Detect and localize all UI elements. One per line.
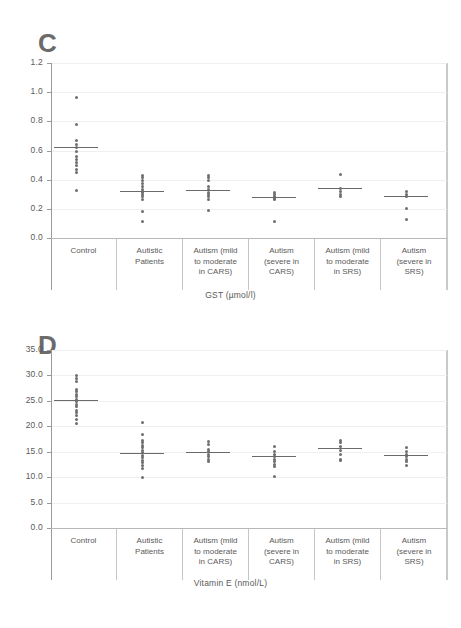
panel-c-category-axis: ControlAutistic PatientsAutism (mild to …: [51, 238, 447, 290]
mean-line: [252, 456, 296, 457]
data-point: [141, 421, 144, 424]
data-point: [339, 173, 342, 176]
panel-d: D 0.05.010.015.020.025.030.035.0 Control…: [0, 314, 461, 628]
y-axis-label: 1.2: [17, 58, 43, 67]
y-axis-label: 0.8: [17, 116, 43, 125]
gridline: [51, 63, 447, 64]
data-point: [141, 220, 144, 223]
gridline: [51, 375, 447, 376]
data-point: [273, 220, 276, 223]
mean-line: [120, 191, 164, 192]
category-label-4: Autism (mild to moderate in SRS): [315, 529, 381, 580]
mean-line: [120, 453, 164, 454]
figure-container: C 0.00.20.40.60.81.01.2 ControlAutistic …: [0, 0, 461, 628]
data-point: [75, 150, 78, 153]
category-label-2: Autism (mild to moderate in CARS): [183, 239, 249, 290]
mean-line: [384, 455, 428, 456]
y-axis-label: 0.2: [17, 204, 43, 213]
gridline: [51, 477, 447, 478]
data-point: [75, 414, 78, 417]
data-point: [405, 446, 408, 449]
data-point: [339, 459, 342, 462]
gridline: [51, 121, 447, 122]
y-axis-tick: [47, 151, 51, 152]
data-point: [75, 164, 78, 167]
y-axis-tick: [47, 63, 51, 64]
y-axis-tick: [47, 350, 51, 351]
data-point: [75, 418, 78, 421]
y-axis-tick: [47, 452, 51, 453]
y-axis-tick: [47, 121, 51, 122]
data-point: [75, 123, 78, 126]
y-axis-tick: [47, 375, 51, 376]
data-point: [207, 209, 210, 212]
mean-line: [318, 448, 362, 449]
y-axis-tick: [47, 401, 51, 402]
data-point: [75, 189, 78, 192]
mean-line: [54, 400, 98, 401]
y-axis-label: 20.0: [17, 421, 43, 430]
y-axis-tick: [47, 503, 51, 504]
y-axis-label: 30.0: [17, 370, 43, 379]
data-point: [141, 210, 144, 213]
data-point: [75, 380, 78, 383]
gridline: [51, 426, 447, 427]
category-label-5: Autism (severe in SRS): [381, 239, 447, 290]
category-label-1: Autistic Patients: [117, 239, 183, 290]
y-axis-label: 0.0: [17, 523, 43, 532]
data-point: [405, 464, 408, 467]
y-axis-tick: [47, 477, 51, 478]
y-axis-label: 35.0: [17, 345, 43, 354]
y-axis-label: 1.0: [17, 87, 43, 96]
y-axis-label: 5.0: [17, 498, 43, 507]
y-axis-tick: [47, 426, 51, 427]
category-label-3: Autism (severe in CARS): [249, 529, 315, 580]
data-point: [339, 441, 342, 444]
data-point: [75, 96, 78, 99]
category-label-4: Autism (mild to moderate in SRS): [315, 239, 381, 290]
panel-c: C 0.00.20.40.60.81.01.2 ControlAutistic …: [0, 0, 461, 314]
data-point: [207, 179, 210, 182]
panel-d-category-axis: ControlAutistic PatientsAutism (mild to …: [51, 528, 447, 580]
category-label-0: Control: [51, 529, 117, 580]
data-point: [141, 476, 144, 479]
data-point: [273, 475, 276, 478]
y-axis-label: 0.0: [17, 233, 43, 242]
panel-c-letter: C: [38, 28, 57, 59]
y-axis-label: 25.0: [17, 396, 43, 405]
gridline: [51, 452, 447, 453]
category-label-1: Autistic Patients: [117, 529, 183, 580]
category-label-2: Autism (mild to moderate in CARS): [183, 529, 249, 580]
data-point: [75, 171, 78, 174]
data-point: [273, 445, 276, 448]
plot-right-border: [447, 63, 448, 290]
y-axis-label: 0.4: [17, 175, 43, 184]
mean-line: [54, 147, 98, 148]
data-point: [141, 433, 144, 436]
y-axis-tick: [47, 209, 51, 210]
data-point: [405, 460, 408, 463]
data-point: [75, 422, 78, 425]
data-point: [405, 207, 408, 210]
y-axis-label: 15.0: [17, 447, 43, 456]
mean-line: [186, 452, 230, 453]
gridline: [51, 503, 447, 504]
y-axis-tick: [47, 180, 51, 181]
data-point: [273, 465, 276, 468]
gridline: [51, 151, 447, 152]
panel-c-axis-title: GST (µmol/l): [0, 290, 461, 300]
data-point: [405, 218, 408, 221]
category-label-3: Autism (severe in CARS): [249, 239, 315, 290]
mean-line: [186, 190, 230, 191]
y-axis-tick: [47, 92, 51, 93]
gridline: [51, 180, 447, 181]
panel-d-axis-title: Vitamin E (nmol/L): [0, 578, 461, 588]
data-point: [207, 460, 210, 463]
data-point: [339, 195, 342, 198]
gridline: [51, 350, 447, 351]
category-label-0: Control: [51, 239, 117, 290]
plot-right-border: [447, 350, 448, 580]
data-point: [75, 139, 78, 142]
mean-line: [252, 197, 296, 198]
gridline: [51, 401, 447, 402]
